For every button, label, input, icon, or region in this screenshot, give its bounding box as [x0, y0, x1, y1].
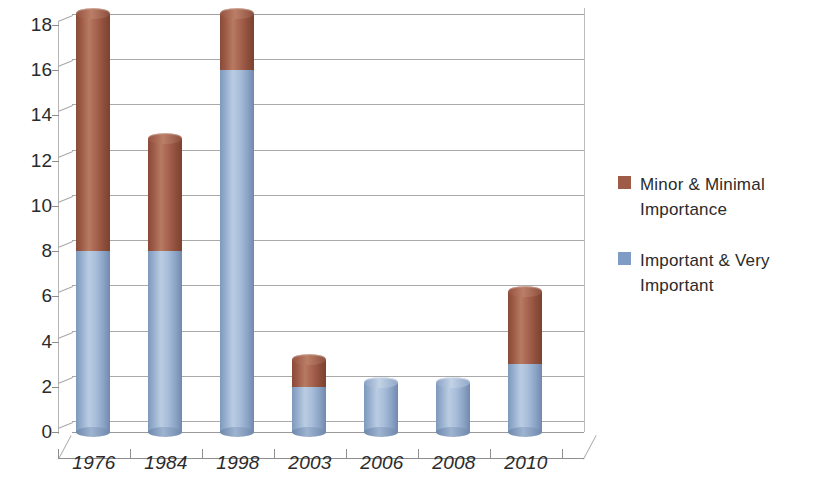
- y-axis-tick-label: 0: [0, 421, 52, 443]
- cylinder-foot: [148, 427, 182, 437]
- legend-swatch-icon: [618, 176, 631, 189]
- y-axis-tick: [52, 251, 59, 252]
- y-axis-tick: [52, 115, 59, 116]
- bar-segment-important: [364, 382, 398, 432]
- y-axis-tick-label: 6: [0, 285, 52, 307]
- cylinder-foot: [508, 427, 542, 437]
- gridline-riser: [58, 105, 73, 112]
- x-axis-label-2006: 2006: [342, 452, 422, 474]
- y-axis-tick: [52, 206, 59, 207]
- legend-swatch-icon: [618, 252, 631, 265]
- bar-segment-important: [148, 251, 182, 432]
- y-axis-tick: [52, 161, 59, 162]
- y-axis-tick-label: 14: [0, 104, 52, 126]
- bar-segment-important: [508, 364, 542, 432]
- cylinder-cap: [436, 377, 470, 388]
- bar-segment-minor: [508, 292, 542, 364]
- legend-label-line2: Important: [640, 273, 770, 298]
- y-axis-tick: [52, 296, 59, 297]
- stacked-bar-chart: 0 2 4 6 8 10 12 14 16 18: [0, 0, 814, 477]
- legend-item-important-very: Important & Very Important: [618, 248, 814, 298]
- gridline-riser: [58, 241, 73, 248]
- y-axis-tick-label: 4: [0, 331, 52, 353]
- gridline-riser: [58, 60, 73, 67]
- gridline: [72, 59, 584, 60]
- gridline-riser: [58, 196, 73, 203]
- bar-1984: [148, 138, 182, 432]
- x-axis-label-1984: 1984: [126, 452, 206, 474]
- bar-2003: [292, 360, 326, 432]
- segment-body: [292, 387, 326, 432]
- segment-body: [76, 251, 110, 432]
- cylinder-foot: [76, 427, 110, 437]
- segment-body: [364, 382, 398, 432]
- y-axis-tick-label: 2: [0, 376, 52, 398]
- x-axis-label-1976: 1976: [54, 452, 134, 474]
- gridline-riser: [58, 422, 73, 429]
- bar-1976: [76, 14, 110, 432]
- gridline: [72, 104, 584, 105]
- x-axis-label-1998: 1998: [198, 452, 278, 474]
- segment-body: [76, 14, 110, 251]
- segment-body: [148, 138, 182, 251]
- segment-body: [220, 70, 254, 432]
- y-axis-tick-label: 12: [0, 150, 52, 172]
- bar-segment-minor: [292, 360, 326, 387]
- y-axis-tick-label: 18: [0, 14, 52, 36]
- y-axis-tick-label: 8: [0, 240, 52, 262]
- segment-body: [508, 292, 542, 364]
- y-axis-line: [58, 22, 59, 434]
- bar-segment-minor: [148, 138, 182, 251]
- legend-label-minor-minimal: Minor & Minimal Importance: [640, 172, 765, 222]
- bar-segment-important: [220, 70, 254, 432]
- y-axis-tick-label: 16: [0, 59, 52, 81]
- gridline-riser: [58, 15, 73, 22]
- y-axis-tick-label: 10: [0, 195, 52, 217]
- legend-item-minor-minimal: Minor & Minimal Importance: [618, 172, 814, 222]
- bar-segment-important: [292, 387, 326, 432]
- bar-1998: [220, 14, 254, 432]
- segment-body: [436, 382, 470, 432]
- gridline-riser: [58, 377, 73, 384]
- segment-body: [220, 14, 254, 71]
- bar-2010: [508, 292, 542, 432]
- chart-legend: Minor & Minimal Importance Important & V…: [618, 172, 814, 324]
- bar-2006: [364, 382, 398, 432]
- x-axis-label-2008: 2008: [414, 452, 494, 474]
- cylinder-foot: [292, 427, 326, 437]
- cylinder-foot: [220, 427, 254, 437]
- bar-segment-important: [76, 251, 110, 432]
- y-axis-tick: [52, 342, 59, 343]
- y-axis-tick: [52, 70, 59, 71]
- gridline-riser: [58, 151, 73, 158]
- gridline: [72, 14, 584, 15]
- legend-label-line2: Importance: [640, 197, 765, 222]
- segment-body: [508, 364, 542, 432]
- x-axis-label-2010: 2010: [486, 452, 566, 474]
- y-axis-tick: [52, 25, 59, 26]
- gridline-riser: [58, 332, 73, 339]
- cylinder-cap: [364, 377, 398, 388]
- legend-label-line1: Minor & Minimal: [640, 172, 765, 197]
- cylinder-cap: [148, 133, 182, 144]
- segment-body: [148, 251, 182, 432]
- floor-right-edge: [583, 435, 597, 459]
- bar-2008: [436, 382, 470, 432]
- bar-segment-important: [436, 382, 470, 432]
- x-axis-label-2003: 2003: [270, 452, 350, 474]
- cylinder-foot: [436, 427, 470, 437]
- bar-segment-minor: [76, 14, 110, 251]
- bar-segment-minor: [220, 14, 254, 71]
- back-wall-edge: [584, 8, 585, 432]
- legend-label-important-very: Important & Very Important: [640, 248, 770, 298]
- cylinder-foot: [364, 427, 398, 437]
- gridline-riser: [58, 286, 73, 293]
- y-axis-tick: [52, 387, 59, 388]
- legend-label-line1: Important & Very: [640, 248, 770, 273]
